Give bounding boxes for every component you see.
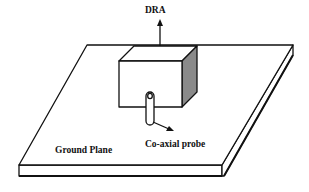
ground-plane-front-edge	[19, 165, 222, 176]
ground-plane-label: Ground Plane	[55, 146, 112, 156]
coaxial-probe-label: Co-axial probe	[145, 140, 205, 150]
arrow-up-icon	[157, 19, 163, 26]
probe-top-cap	[148, 93, 153, 98]
dra-block	[119, 46, 197, 107]
dra-label: DRA	[145, 6, 166, 16]
dra-diagram	[0, 0, 309, 192]
coaxial-probe	[146, 92, 154, 125]
dra-arrow	[157, 19, 163, 46]
